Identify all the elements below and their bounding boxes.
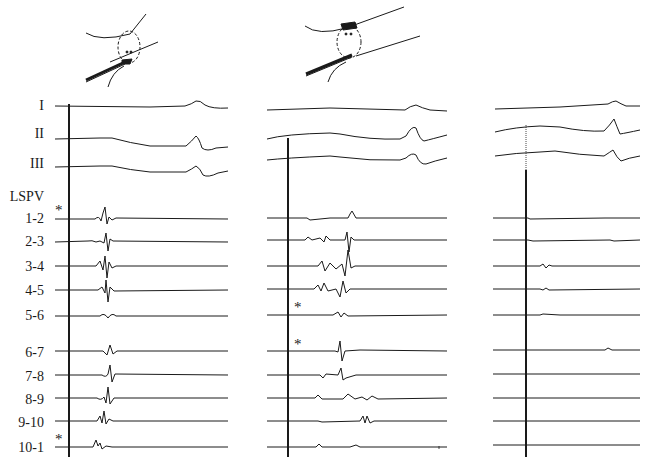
electrogram-figure: I II III LSPV 1-2 2-3 3-4 4-5 5-6 6-7 7-… [0, 0, 645, 463]
schematic-vein-electrode-top-icon [305, 7, 420, 82]
schematic-vein-electrode-bottom-icon [86, 14, 158, 87]
panel-3-traces [493, 101, 640, 457]
panel-2-traces [267, 105, 447, 457]
panel-1-traces [55, 101, 228, 457]
traces-canvas [0, 0, 645, 463]
